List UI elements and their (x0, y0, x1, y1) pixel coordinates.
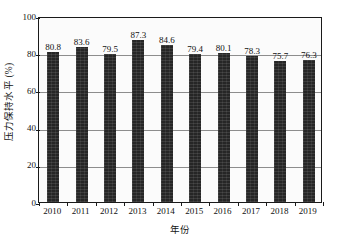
x-axis-tick-mark (39, 202, 40, 206)
x-axis-tick-mark (181, 202, 182, 206)
y-axis-tick-label: 100 (2, 13, 36, 22)
bar-value-label: 78.3 (238, 47, 266, 56)
bar[interactable] (47, 52, 59, 202)
x-axis-tick-label: 2012 (93, 206, 125, 216)
x-axis-tick-label: 2017 (235, 206, 267, 216)
x-axis-tick-label: 2014 (150, 206, 182, 216)
bar[interactable] (274, 61, 286, 202)
bar-value-label: 76.3 (295, 51, 323, 60)
x-axis-tick-mark (295, 202, 296, 206)
y-axis-tick-mark (36, 92, 40, 93)
y-axis-tick-mark (36, 130, 40, 131)
x-axis-tick-mark (153, 202, 154, 206)
y-axis-tick-mark (36, 167, 40, 168)
bar[interactable] (218, 53, 230, 202)
x-axis-tick-mark (124, 202, 125, 206)
x-axis-tick-label: 2015 (178, 206, 210, 216)
bar[interactable] (132, 40, 144, 202)
y-axis-tick-label: 80 (2, 50, 36, 59)
bar-value-label: 80.1 (210, 44, 238, 53)
y-axis-tick-mark (36, 55, 40, 56)
bar[interactable] (246, 56, 258, 202)
x-axis-tick-mark (209, 202, 210, 206)
y-axis-tick-label: 40 (2, 124, 36, 133)
x-axis-tick-mark (323, 202, 324, 206)
bar-value-label: 80.8 (39, 43, 67, 52)
x-axis-tick-label: 2018 (263, 206, 295, 216)
x-axis-tick-mark (67, 202, 68, 206)
x-axis-tick-mark (238, 202, 239, 206)
x-axis-tick-label: 2019 (292, 206, 324, 216)
bar[interactable] (303, 60, 315, 202)
y-axis-tick-label: 20 (2, 161, 36, 170)
bar-value-label: 79.4 (181, 45, 209, 54)
x-axis-tick-label: 2011 (65, 206, 97, 216)
plot-area: 80.883.679.587.384.679.480.178.375.776.3 (38, 17, 322, 203)
x-axis-tick-mark (266, 202, 267, 206)
bar-value-label: 83.6 (68, 38, 96, 47)
y-axis-tick-label: 60 (2, 87, 36, 96)
bar-value-label: 75.7 (266, 52, 294, 61)
y-axis-tick-mark (36, 18, 40, 19)
bar[interactable] (189, 54, 201, 202)
x-axis-title: 年份 (38, 222, 322, 236)
bar[interactable] (76, 47, 88, 202)
bar[interactable] (104, 54, 116, 202)
bar[interactable] (161, 45, 173, 202)
x-axis-tick-label: 2013 (121, 206, 153, 216)
bar-value-label: 84.6 (153, 36, 181, 45)
bar-chart-figure: 压力保持水平 (%) 020406080100 80.883.679.587.3… (0, 0, 339, 246)
y-axis-tick-label: 0 (2, 199, 36, 208)
x-axis-tick-label: 2016 (207, 206, 239, 216)
y-axis-tick-labels: 020406080100 (0, 0, 36, 246)
x-axis-tick-mark (96, 202, 97, 206)
x-axis-tick-labels: 2010201120122013201420152016201720182019 (38, 206, 322, 220)
x-axis-tick-label: 2010 (36, 206, 68, 216)
bar-value-label: 87.3 (124, 31, 152, 40)
bar-value-label: 79.5 (96, 45, 124, 54)
